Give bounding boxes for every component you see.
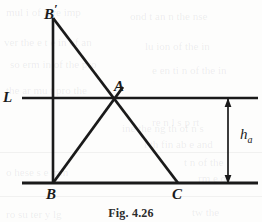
height-dimension-arrow xyxy=(225,98,232,184)
label-b-prime-mark: ′ xyxy=(54,1,58,16)
segment-b-to-a xyxy=(53,87,123,183)
label-vertex-a: A xyxy=(114,79,124,94)
label-height-ha: ha xyxy=(240,127,253,145)
label-height-subscript: a xyxy=(248,134,253,145)
label-b-prime: B′ xyxy=(44,2,58,22)
dimension-arrowhead-top xyxy=(225,98,232,107)
label-b-prime-letter: B xyxy=(44,6,54,22)
label-vertex-c: C xyxy=(172,187,182,202)
label-height-letter: h xyxy=(240,126,248,142)
geometry-diagram xyxy=(0,0,262,222)
figure-caption: Fig. 4.26 xyxy=(0,206,262,221)
label-line-l: L xyxy=(3,90,12,105)
figure-container: mul i of ll re impond t an n the nsever … xyxy=(0,0,262,222)
label-vertex-b: B xyxy=(46,187,56,202)
